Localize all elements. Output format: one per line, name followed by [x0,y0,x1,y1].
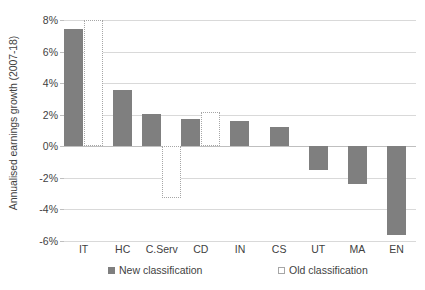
bar-group [299,20,338,241]
y-axis-tick-label: -4% [39,203,58,215]
x-axis-tick-label: C.Serv [146,243,178,255]
bar-old-classification [201,112,220,147]
x-axis-tick-label: IN [235,243,246,255]
legend-item[interactable]: Old classification [278,264,368,276]
bar-group [103,20,142,241]
x-axis-tick-label: EN [389,243,404,255]
y-axis-tick-labels: 8%6%4%2%0%-2%-4%-6% [26,0,62,246]
bar-new-classification [113,90,132,146]
y-axis-tick-label: 6% [43,46,58,58]
y-axis-tick-label: 0% [43,140,58,152]
y-axis-tick-label: 2% [43,109,58,121]
bar-group [260,20,299,241]
bar-new-classification [181,119,200,146]
legend-swatch-new-icon [108,267,115,274]
bar-group [377,20,416,241]
legend-swatch-old-icon [278,267,285,274]
bar-group [220,20,259,241]
bar-group [338,20,377,241]
y-axis-tick-label: -2% [39,172,58,184]
plot-area [64,20,416,241]
gridline [64,241,416,242]
legend-item-label: New classification [119,264,202,276]
y-axis-title: Annualised earnings growth (2007-18) [0,0,26,246]
y-axis-tick-mark [60,241,64,242]
bar-new-classification [64,29,83,146]
chart-legend: New classificationOld classification [64,264,416,280]
y-axis-title-text: Annualised earnings growth (2007-18) [7,36,19,210]
bar-chart: Annualised earnings growth (2007-18) 8%6… [0,0,425,290]
x-axis-tick-label: CS [272,243,287,255]
y-axis-tick-label: 4% [43,77,58,89]
bar-new-classification [270,127,289,147]
x-axis-tick-labels: ITHCC.ServCDINCSUTMAEN [64,243,416,263]
x-axis-tick-label: MA [349,243,365,255]
bar-new-classification [142,114,161,146]
bar-group [64,20,103,241]
x-axis-tick-label: CD [193,243,208,255]
bar-group [142,20,181,241]
legend-item-label: Old classification [289,264,368,276]
y-axis-tick-label: -6% [39,235,58,247]
x-axis-tick-label: UT [311,243,325,255]
x-axis-tick-label: HC [115,243,130,255]
bar-new-classification [309,146,328,170]
bar-new-classification [387,146,406,234]
legend-item[interactable]: New classification [108,264,202,276]
bar-group [181,20,220,241]
bar-old-classification [162,146,181,198]
bar-new-classification [348,146,367,184]
y-axis-tick-label: 8% [43,14,58,26]
bar-new-classification [230,121,249,146]
bar-old-classification [84,20,103,146]
bars-layer [64,20,416,241]
x-axis-tick-label: IT [79,243,88,255]
